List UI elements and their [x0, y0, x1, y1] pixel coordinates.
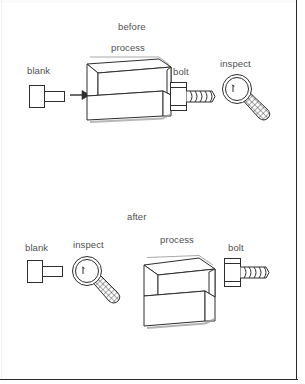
process-machine-box-icon: [83, 54, 179, 132]
bolt-icon: [222, 256, 278, 290]
bolt-icon: [168, 80, 224, 114]
process-machine-box-icon: [141, 254, 223, 338]
label-inspect-after: inspect: [73, 239, 104, 250]
page-border-left: [1, 0, 2, 379]
panel-title-after: after: [127, 211, 147, 222]
page-border-bottom: [0, 379, 298, 380]
blank-workpiece-icon: [28, 83, 68, 113]
label-process-before: process: [111, 42, 145, 53]
page-border-right: [296, 0, 297, 380]
diagram-page: before process blank bolt inspect: [0, 0, 305, 384]
label-blank-after: blank: [25, 242, 48, 253]
label-bolt-after: bolt: [228, 242, 244, 253]
magnifying-glass-icon: [69, 255, 131, 309]
panel-title-before: before: [118, 21, 146, 32]
cropped-text-above: [0, 0, 296, 8]
blank-workpiece-icon: [26, 258, 66, 288]
magnifying-glass-icon: [218, 73, 280, 125]
label-process-after: process: [160, 234, 194, 245]
label-blank-before: blank: [27, 65, 50, 76]
label-inspect-before: inspect: [220, 58, 251, 69]
